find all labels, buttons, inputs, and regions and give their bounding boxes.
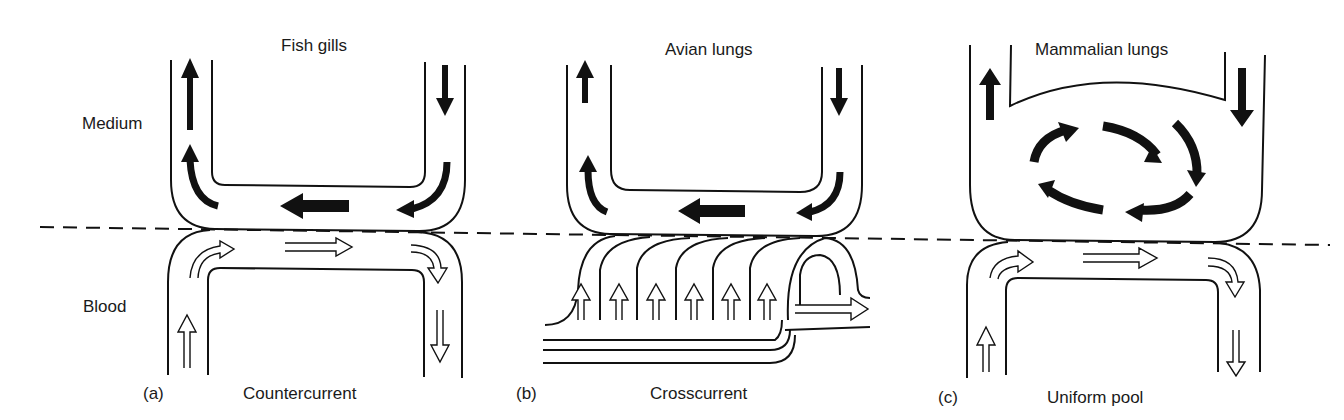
hollow-arrow-right-icon (285, 238, 352, 256)
panel-b-blood-arrows (572, 284, 868, 320)
panel-a-blood-arrows (178, 238, 449, 368)
panel-c-letter: (c) (938, 388, 958, 408)
arrow-up-icon (576, 60, 594, 103)
panel-b-title: Avian lungs (665, 40, 753, 60)
panel-c-medium-arrows (979, 68, 1254, 127)
gas-exchange-diagram (0, 0, 1344, 420)
panel-b-caption: Crosscurrent (650, 384, 747, 404)
arrow-down-icon (436, 65, 454, 116)
hollow-arrow-right-icon (795, 298, 868, 320)
panel-a-fish-gills (168, 60, 465, 378)
panel-c-caption: Uniform pool (1047, 388, 1143, 408)
panel-b-letter: (b) (516, 384, 537, 404)
curved-arrow-up-icon (190, 160, 218, 206)
panel-c-blood-arrows (977, 248, 1245, 376)
panel-a-letter: (a) (143, 384, 164, 404)
hollow-arrow-up-icon (178, 315, 196, 368)
arrow-up-icon (979, 68, 1001, 120)
hollow-curved-arrow-down-icon (411, 245, 447, 283)
circulating-arrows-icon (1034, 123, 1197, 210)
panel-c-mammalian-lungs (967, 45, 1265, 378)
blood-label: Blood (83, 297, 126, 317)
hollow-curved-arrow-icon (190, 241, 234, 278)
arrow-down-icon (830, 68, 848, 116)
panel-a-title: Fish gills (281, 36, 347, 56)
hollow-arrow-down-icon (431, 310, 449, 362)
panel-b-medium-arrows (576, 60, 848, 224)
arrow-up-icon (181, 58, 199, 130)
panel-c-title: Mammalian lungs (1035, 40, 1168, 60)
arrow-down-icon (1230, 68, 1254, 127)
medium-label: Medium (82, 114, 142, 134)
arrow-left-icon (280, 193, 349, 219)
arrow-left-icon (678, 198, 745, 224)
panel-a-caption: Countercurrent (243, 384, 356, 404)
panel-a-medium-arrows (181, 58, 454, 219)
